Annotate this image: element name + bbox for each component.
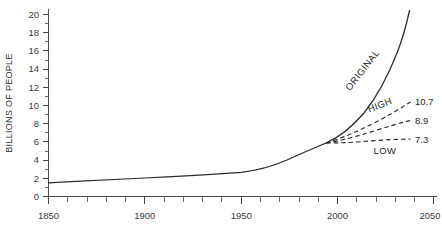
x-tick-label: 2050: [419, 210, 440, 221]
series-line-original: [49, 11, 410, 183]
series-annotation-high: HIGH: [366, 95, 394, 114]
y-tick-label-group: 0 2 4 6 8 10 12 14 16 18 20: [28, 9, 39, 202]
y-tick-label: 10: [28, 100, 39, 111]
series-annotation-low: LOW: [374, 145, 397, 156]
population-projection-chart: 0 2 4 6 8 10 12 14 16 18 20: [0, 0, 442, 232]
y-tick-label: 16: [28, 45, 39, 56]
y-axis-title: BILLIONS OF PEOPLE: [4, 53, 14, 152]
y-tick-label: 4: [34, 154, 39, 165]
x-tick-label: 1950: [231, 210, 252, 221]
y-tick-group: [43, 15, 49, 197]
endpoint-label-group: 10.7 8.9 7.3: [415, 96, 434, 145]
x-tick-label: 1900: [134, 210, 155, 221]
endpoint-value-medium: 8.9: [415, 115, 428, 126]
y-tick-label: 6: [34, 136, 39, 147]
y-tick-label: 0: [34, 191, 39, 202]
x-tick-group: [49, 197, 434, 205]
endpoint-value-high: 10.7: [415, 96, 434, 107]
endpoint-value-low: 7.3: [415, 134, 428, 145]
x-tick-label-group: 1850 1900 1950 2000 2050: [38, 210, 441, 221]
series-group: [49, 11, 411, 183]
chart-canvas: 0 2 4 6 8 10 12 14 16 18 20: [0, 0, 442, 232]
series-line-low: [326, 139, 411, 143]
y-tick-label: 18: [28, 27, 39, 38]
y-tick-label: 14: [28, 63, 39, 74]
y-tick-label: 12: [28, 82, 39, 93]
x-tick-label: 2000: [327, 210, 348, 221]
y-tick-label: 8: [34, 118, 39, 129]
y-tick-label: 2: [34, 173, 39, 184]
series-annotation-original: ORIGINAL: [343, 47, 382, 92]
x-tick-label: 1850: [38, 210, 59, 221]
y-tick-label: 20: [28, 9, 39, 20]
